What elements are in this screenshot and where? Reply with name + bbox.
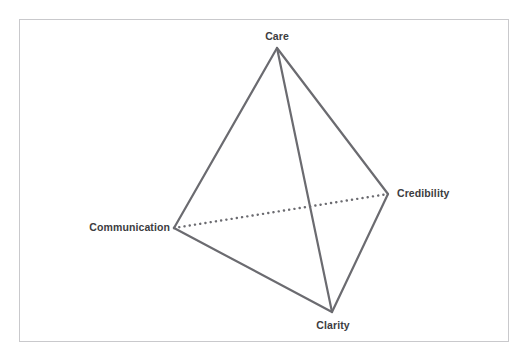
- vertex-label-credibility: Credibility: [397, 188, 449, 199]
- edge-care-clarity: [277, 48, 332, 312]
- edge-credibility-clarity: [332, 194, 388, 312]
- vertex-label-clarity: Clarity: [316, 320, 349, 331]
- edge-communication-credibility-hidden: [174, 194, 388, 228]
- diagram-canvas: Care Credibility Clarity Communication: [0, 0, 528, 358]
- vertex-label-communication: Communication: [89, 222, 170, 233]
- edge-care-communication: [174, 48, 277, 228]
- edge-care-credibility: [277, 48, 388, 194]
- tetrahedron-edges: [174, 48, 388, 312]
- tetrahedron-graphic: [0, 0, 528, 358]
- edge-communication-clarity: [174, 228, 332, 312]
- vertex-label-care: Care: [265, 31, 289, 42]
